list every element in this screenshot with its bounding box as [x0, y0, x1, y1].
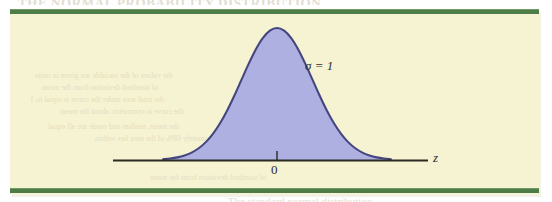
sigma-annotation-label: σ = 1 — [305, 58, 333, 74]
scan-artifact-bottom-text: The standard normal distribution — [150, 195, 450, 202]
center-tick-label: 0 — [271, 162, 278, 178]
figure-root: THE NORMAL PROBABILITY DISTRIBUTION the … — [0, 0, 552, 202]
normal-curve-fill — [163, 28, 391, 160]
bottom-rule-highlight — [10, 188, 539, 189]
x-axis-label: z — [433, 150, 438, 166]
curve-group — [163, 28, 391, 160]
